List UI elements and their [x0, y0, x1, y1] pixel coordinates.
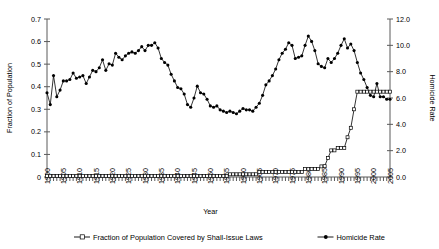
- data-point-marker: [130, 50, 133, 53]
- data-point-marker: [85, 174, 88, 177]
- data-point-marker: [137, 49, 140, 52]
- data-point-marker: [81, 174, 84, 177]
- data-point-marker: [206, 174, 209, 177]
- data-point-marker: [88, 174, 91, 177]
- data-point-marker: [274, 171, 277, 174]
- data-point-marker: [366, 90, 369, 93]
- data-point-marker: [150, 44, 153, 47]
- data-point-marker: [258, 102, 261, 105]
- data-point-marker: [62, 79, 65, 82]
- legend-label-text: Homicide Rate: [337, 233, 385, 242]
- data-point-marker: [274, 67, 277, 70]
- data-point-marker: [62, 174, 65, 177]
- data-point-marker: [222, 110, 225, 113]
- y-axis-right-tick-label: 6.0: [396, 94, 406, 103]
- data-point-marker: [55, 95, 58, 98]
- data-point-marker: [170, 174, 173, 177]
- data-point-marker: [150, 174, 153, 177]
- data-point-marker: [277, 58, 280, 61]
- data-point-marker: [339, 44, 342, 47]
- data-point-marker: [264, 83, 267, 86]
- data-point-marker: [212, 174, 215, 177]
- data-point-marker: [75, 77, 78, 80]
- data-point-marker: [98, 174, 101, 177]
- data-point-marker: [330, 61, 333, 64]
- data-point-marker: [68, 174, 71, 177]
- data-point-marker: [173, 79, 176, 82]
- data-point-marker: [163, 61, 166, 64]
- data-point-marker: [264, 171, 267, 174]
- data-point-marker: [353, 49, 356, 52]
- data-point-marker: [78, 174, 81, 177]
- data-point-marker: [196, 85, 199, 88]
- data-point-marker: [228, 110, 231, 113]
- data-point-marker: [388, 98, 391, 101]
- data-point-marker: [166, 174, 169, 177]
- data-point-marker: [268, 171, 271, 174]
- data-point-marker: [147, 174, 150, 177]
- data-point-marker: [317, 62, 320, 65]
- data-point-marker: [134, 174, 137, 177]
- data-point-marker: [277, 171, 280, 174]
- data-point-marker: [179, 87, 182, 90]
- y-axis-left-tick-label: 0.1: [31, 150, 41, 159]
- data-point-marker: [248, 173, 251, 176]
- data-point-marker: [235, 112, 238, 115]
- y-axis-left-tick-label: 0.3: [31, 105, 41, 114]
- data-point-marker: [304, 44, 307, 47]
- data-point-marker: [219, 108, 222, 111]
- data-point-marker: [192, 96, 195, 99]
- data-point-marker: [160, 57, 163, 60]
- data-point-marker: [176, 174, 179, 177]
- data-point-marker: [170, 73, 173, 76]
- data-point-marker: [143, 49, 146, 52]
- homicide-shall-issue-chart: 00.10.20.30.40.50.60.7Fraction of Popula…: [0, 0, 439, 249]
- data-point-marker: [85, 82, 88, 85]
- legend-item: [74, 235, 90, 239]
- data-point-marker: [300, 54, 303, 57]
- data-point-marker: [330, 149, 333, 152]
- series-shall-issue-fraction: [46, 90, 392, 177]
- data-point-marker: [304, 167, 307, 170]
- data-point-marker: [215, 104, 218, 107]
- data-point-marker: [215, 174, 218, 177]
- data-point-marker: [72, 174, 75, 177]
- data-point-marker: [333, 57, 336, 60]
- data-point-marker: [248, 108, 251, 111]
- data-point-marker: [379, 95, 382, 98]
- y-axis-right-tick-label: 12.0: [396, 15, 410, 24]
- data-point-marker: [202, 93, 205, 96]
- data-point-marker: [111, 174, 114, 177]
- legend-item: [318, 235, 334, 239]
- data-point-marker: [52, 74, 55, 77]
- data-point-marker: [117, 56, 120, 59]
- y-axis-left-tick-label: 0.7: [31, 15, 41, 24]
- data-point-marker: [104, 174, 107, 177]
- data-point-marker: [176, 86, 179, 89]
- data-point-marker: [199, 91, 202, 94]
- legend-marker-filled-diamond: [324, 235, 328, 239]
- data-point-marker: [238, 173, 241, 176]
- data-point-marker: [313, 49, 316, 52]
- data-point-marker: [271, 171, 274, 174]
- data-point-marker: [238, 110, 241, 113]
- data-point-marker: [245, 108, 248, 111]
- data-point-marker: [202, 174, 205, 177]
- y-axis-left-tick-label: 0.6: [31, 37, 41, 46]
- data-point-marker: [317, 167, 320, 170]
- data-point-marker: [55, 174, 58, 177]
- data-point-marker: [326, 157, 329, 160]
- data-point-marker: [255, 106, 258, 109]
- legend-marker-open-square: [80, 235, 84, 239]
- x-axis-tick-label: 2005: [386, 168, 395, 184]
- data-point-marker: [369, 94, 372, 97]
- data-point-marker: [294, 171, 297, 174]
- data-point-marker: [108, 174, 111, 177]
- y-axis-left-tick-label: 0.4: [31, 82, 41, 91]
- data-point-marker: [287, 41, 290, 44]
- data-point-marker: [183, 174, 186, 177]
- data-point-marker: [385, 98, 388, 101]
- data-point-marker: [160, 174, 163, 177]
- data-point-marker: [297, 56, 300, 59]
- data-point-marker: [117, 174, 120, 177]
